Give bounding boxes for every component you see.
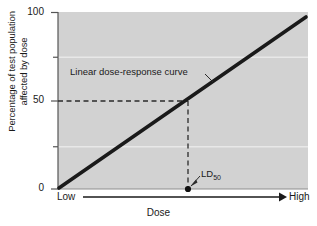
dose-response-chart: Percentage of test population affected b… [0, 0, 317, 226]
x-axis-title: Dose [0, 207, 317, 218]
x-axis-high-label: High [289, 191, 310, 202]
y-tick-label-0: 0 [18, 182, 44, 193]
ld50-text-main: LD [201, 168, 213, 179]
y-axis-title-line2: affected by dose [17, 0, 29, 152]
ld50-text-sub: 50 [213, 174, 221, 181]
x-axis-low-label: Low [57, 191, 75, 202]
y-tick-label-50: 50 [18, 94, 44, 105]
ld50-point-marker [185, 186, 191, 192]
y-axis-title: Percentage of test population affected b… [6, 0, 29, 152]
y-tick-label-100: 100 [18, 6, 44, 17]
y-axis-title-line1: Percentage of test population [6, 0, 18, 152]
ld50-annotation-text: LD50 [201, 168, 221, 181]
curve-annotation-text: Linear dose-response curve [70, 66, 188, 77]
chart-canvas [0, 0, 317, 226]
dose-direction-arrowhead-icon [279, 193, 287, 202]
